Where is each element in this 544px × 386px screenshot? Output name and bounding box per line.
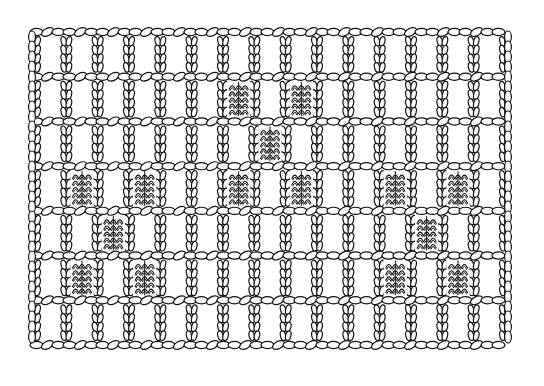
- solid-block: [415, 215, 438, 252]
- solid-block: [258, 125, 281, 162]
- solid-block: [70, 170, 93, 207]
- crochet-mesh-diagram: [0, 0, 544, 386]
- solid-block: [446, 260, 469, 297]
- solid-block: [102, 215, 125, 252]
- solid-block: [290, 81, 313, 118]
- solid-block: [384, 260, 407, 297]
- solid-block: [70, 260, 93, 297]
- solid-block: [227, 81, 250, 118]
- solid-block: [133, 170, 156, 207]
- solid-block: [227, 170, 250, 207]
- solid-block: [133, 260, 156, 297]
- solid-block: [446, 170, 469, 207]
- filet-mesh-svg: [0, 0, 544, 386]
- vertical-posts: [29, 36, 512, 341]
- solid-block: [290, 170, 313, 207]
- solid-block: [384, 170, 407, 207]
